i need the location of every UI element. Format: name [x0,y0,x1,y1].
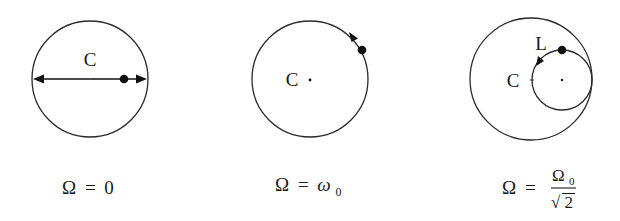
numerator-subscript: 0 [569,175,575,187]
outer-circle [470,18,592,140]
arrow-ccw-icon [349,32,358,42]
svg-text:Ω 0: Ω 0 [552,166,575,187]
equals-sign: = [298,174,309,195]
equals-sign: = [85,177,96,198]
caption-value: 0 [104,177,114,198]
point-label: L [535,33,547,54]
arrow-right-icon [136,75,147,84]
fraction-numerator: Ω [552,166,565,185]
particle-ball [120,75,129,84]
caption-2: Ω = ω 0 [275,174,342,199]
omega-lower-symbol: ω [317,174,330,195]
particle-ball [358,46,367,55]
diagram-canvas: C C L C Ω = 0 Ω = ω 0 [0,0,620,221]
particle-ball [558,46,567,55]
center-label: C [84,49,97,70]
subscript: 0 [336,185,342,199]
fraction-denominator: 2 [565,193,574,212]
panel-2: C [252,21,368,137]
omega-symbol: Ω [62,177,76,198]
center-label: C [507,70,520,91]
panel-1: C [32,21,148,137]
center-dot [89,78,91,80]
svg-text:√ 2: √ 2 [551,193,573,212]
caption-1: Ω = 0 [62,177,114,198]
omega-symbol: Ω [275,174,289,195]
equals-sign: = [525,177,536,198]
svg-text:Ω = ω 0: Ω = ω 0 [275,174,342,199]
center-dot [309,79,312,82]
caption-3: Ω = Ω 0 √ 2 [502,166,576,212]
arrow-left-icon [33,75,44,84]
panel-3: L C [470,18,592,140]
svg-text:Ω = 0: Ω = 0 [62,177,114,198]
sqrt-symbol: √ [551,193,561,212]
inner-center-dot [561,79,563,81]
svg-text:Ω =: Ω = [502,177,536,198]
omega-symbol: Ω [502,177,516,198]
center-label: C [286,69,299,90]
